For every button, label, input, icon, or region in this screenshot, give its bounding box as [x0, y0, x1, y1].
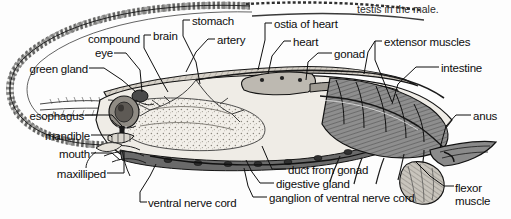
label-stomach: stomach	[192, 15, 234, 27]
label-digestive-gland: digestive gland	[276, 178, 350, 190]
label-mouth: mouth	[59, 148, 90, 160]
label-ganglion-of-ventral-nerve-cord: ganglion of ventral nerve cord	[269, 192, 415, 204]
label-ventral-nerve-cord: ventral nerve cord	[148, 197, 236, 209]
figure-caption-fragment: testis in the male.	[357, 3, 439, 15]
label-compound-eye-line2: eye	[95, 47, 113, 59]
crayfish-anatomy-figure: green gland compound eye esophagus mandi…	[0, 0, 511, 219]
label-duct-from-gonad: duct from gonad	[288, 164, 368, 176]
label-intestine: intestine	[441, 62, 482, 74]
label-maxilliped: maxilliped	[57, 168, 106, 180]
label-flexor-muscle: flexor muscle	[455, 182, 490, 207]
label-anus: anus	[473, 110, 497, 122]
label-ostia-of-heart: ostia of heart	[274, 18, 338, 30]
label-green-gland: green gland	[29, 63, 88, 75]
label-heart: heart	[293, 36, 318, 48]
label-compound-eye-line1: compound	[88, 33, 140, 45]
label-esophagus: esophagus	[30, 110, 84, 122]
label-extensor-muscles: extensor muscles	[384, 36, 470, 48]
label-gonad: gonad	[334, 48, 365, 60]
label-artery: artery	[217, 34, 245, 46]
label-mandible: mandible	[45, 130, 90, 142]
label-brain: brain	[153, 30, 178, 42]
